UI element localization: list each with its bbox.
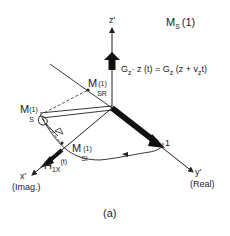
- y-axis-label: y': [195, 168, 201, 177]
- eq-tail-a: (z + v: [176, 64, 198, 74]
- x-axis-note: (Imag.): [12, 183, 41, 192]
- gradient-arrow: [104, 52, 120, 70]
- msr-main: M: [88, 77, 97, 89]
- title-sub: S: [175, 23, 180, 30]
- h1x-sub: 1X: [52, 166, 61, 173]
- figure-title: MS(1): [166, 17, 195, 28]
- ms-sup: (1): [29, 106, 38, 113]
- diagram-canvas: [0, 0, 230, 236]
- y-axis-note: (Real): [190, 180, 215, 189]
- eq-tail-b: t): [202, 64, 208, 74]
- magnetization-thick-arrow: [112, 108, 165, 148]
- msi-sup: (1): [83, 145, 92, 152]
- msi-label: M (1) SI: [72, 143, 93, 154]
- eq-mid: · z (t) = G: [132, 64, 170, 74]
- h1x-main: H: [44, 159, 52, 171]
- gradient-equation: Gz· z (t) = Gz (z + vzt): [121, 65, 207, 74]
- unit-mark: 1: [165, 139, 170, 148]
- ms-label: M (1) S: [20, 104, 39, 115]
- msr-sup: (1): [98, 80, 107, 87]
- msi-main: M: [72, 142, 81, 154]
- msr-label: M (1) SR: [88, 78, 111, 89]
- eq-g1-sub: z: [128, 69, 132, 76]
- title-main: M: [166, 16, 175, 28]
- ms-main: M: [20, 103, 29, 115]
- ms-sub: S: [29, 116, 34, 123]
- msr-sub: SR: [97, 90, 107, 97]
- z-axis-label: z': [109, 16, 115, 25]
- x-axis-label: x': [20, 172, 26, 181]
- panel-label: (a): [103, 208, 116, 219]
- h1x-label: H1X(t): [44, 160, 67, 171]
- projection-dashed-sr: [40, 90, 88, 115]
- msi-sub: SI: [81, 155, 88, 162]
- title-arg: (1): [182, 16, 195, 28]
- h1x-arg: (t): [61, 158, 68, 165]
- eq-tail-sub: z: [198, 69, 202, 76]
- eq-g1: G: [121, 64, 128, 74]
- eq-g2-sub: z: [170, 69, 174, 76]
